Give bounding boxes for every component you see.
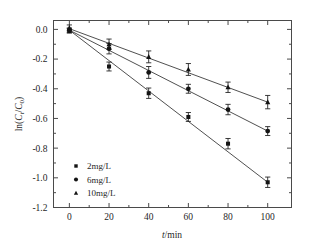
y-axis-tick-labels: 0.0-0.2-0.4-0.6-0.8-1.0-1.2 — [32, 25, 47, 213]
data-point-square — [186, 115, 190, 119]
legend-item[interactable]: 2mg/L — [74, 161, 111, 171]
data-point-triangle — [186, 67, 191, 72]
legend-label: 10mg/L — [87, 188, 116, 198]
data-point-square — [107, 64, 111, 68]
data-point-circle — [226, 107, 231, 112]
data-point-square — [147, 91, 151, 95]
x-tick-label: 20 — [104, 212, 114, 222]
x-axis-tick-labels: 020406080100 — [67, 212, 275, 222]
data-point-triangle — [146, 54, 151, 59]
legend-label: 2mg/L — [87, 161, 111, 171]
legend-item[interactable]: 6mg/L — [74, 175, 111, 185]
legend-marker-triangle — [74, 191, 78, 195]
trend-lines — [69, 29, 267, 183]
trend-line-6mg-per-L — [69, 30, 267, 131]
legend-marker-circle — [74, 177, 78, 181]
trend-line-10mg-per-L — [69, 29, 267, 102]
data-point-circle — [107, 46, 112, 51]
chart-figure: 020406080100 0.0-0.2-0.4-0.6-0.8-1.0-1.2… — [0, 0, 309, 250]
kinetics-scatter-plot: 020406080100 0.0-0.2-0.4-0.6-0.8-1.0-1.2… — [0, 0, 309, 250]
x-axis-title: t/min — [162, 230, 182, 240]
x-tick-label: 60 — [184, 212, 194, 222]
y-tick-label: -0.6 — [32, 114, 47, 124]
legend-label: 6mg/L — [87, 175, 111, 185]
y-tick-label: 0.0 — [36, 25, 48, 35]
x-tick-label: 100 — [261, 212, 276, 222]
legend-marker-square — [74, 164, 77, 167]
data-point-square — [226, 142, 230, 146]
y-tick-label: -1.2 — [32, 203, 47, 213]
data-point-circle — [186, 86, 191, 91]
data-point-square — [266, 180, 270, 184]
legend-item[interactable]: 10mg/L — [74, 188, 116, 198]
x-tick-label: 80 — [223, 212, 233, 222]
y-axis-title: ln(Ct/C0) — [14, 97, 26, 132]
legend: 2mg/L6mg/L10mg/L — [74, 161, 116, 198]
y-tick-label: -0.2 — [32, 54, 47, 64]
data-point-circle — [146, 70, 151, 75]
x-tick-label: 40 — [144, 212, 154, 222]
data-point-circle — [265, 129, 270, 134]
y-tick-label: -0.4 — [32, 84, 47, 94]
trend-line-2mg-per-L — [69, 30, 267, 182]
y-tick-label: -1.0 — [32, 173, 47, 183]
x-tick-label: 0 — [67, 212, 72, 222]
y-tick-label: -0.8 — [32, 144, 47, 154]
